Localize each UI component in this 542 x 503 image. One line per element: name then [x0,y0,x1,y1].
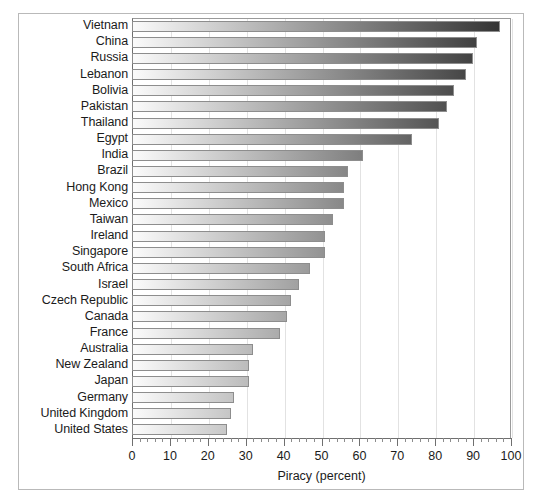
x-tick-minor [375,438,376,442]
x-tick-minor [261,438,262,442]
x-tick-minor [466,438,467,442]
x-tick-minor [344,438,345,442]
y-axis-label-lebanon: Lebanon [0,67,128,81]
x-tick-minor [390,438,391,442]
x-tick-minor [458,438,459,442]
x-tick-label-70: 70 [390,449,404,463]
bar-japan [132,376,249,387]
y-axis-label-south-africa: South Africa [0,260,128,274]
bar-israel [132,279,299,290]
bar-row [132,344,511,355]
x-tick-major [435,438,436,446]
x-tick-minor [140,438,141,442]
bar-hong-kong [132,182,344,193]
x-tick-minor [162,438,163,442]
x-tick-minor [193,438,194,442]
x-tick-major [284,438,285,446]
y-axis-label-new-zealand: New Zealand [0,357,128,371]
bar-lebanon [132,69,466,80]
y-axis-label-canada: Canada [0,309,128,323]
y-axis-label-mexico: Mexico [0,196,128,210]
y-axis-label-taiwan: Taiwan [0,212,128,226]
bar-row [132,247,511,258]
x-tick-minor [291,438,292,442]
x-tick-label-0: 0 [129,449,136,463]
bar-row [132,424,511,435]
bar-row [132,360,511,371]
bar-ireland [132,231,325,242]
y-axis-label-germany: Germany [0,390,128,404]
bar-row [132,150,511,161]
y-axis-label-bolivia: Bolivia [0,83,128,97]
x-tick-major [132,438,133,446]
bar-singapore [132,247,325,258]
x-tick-minor [382,438,383,442]
bar-row [132,101,511,112]
x-tick-label-20: 20 [201,449,215,463]
x-tick-label-90: 90 [466,449,480,463]
x-tick-minor [443,438,444,442]
x-tick-minor [223,438,224,442]
bar-row [132,166,511,177]
bar-series [132,18,511,438]
bar-row [132,21,511,32]
bar-row [132,182,511,193]
x-tick-label-80: 80 [428,449,442,463]
bar-czech-republic [132,295,291,306]
bar-south-africa [132,263,310,274]
x-tick-minor [450,438,451,442]
x-tick-minor [329,438,330,442]
x-tick-label-40: 40 [277,449,291,463]
x-tick-label-50: 50 [315,449,329,463]
bar-china [132,37,477,48]
y-axis-label-egypt: Egypt [0,131,128,145]
x-tick-major [322,438,323,446]
bar-taiwan [132,214,333,225]
bar-row [132,295,511,306]
y-axis-label-india: India [0,147,128,161]
bar-mexico [132,198,344,209]
bar-row [132,311,511,322]
x-tick-label-60: 60 [352,449,366,463]
y-axis-label-pakistan: Pakistan [0,99,128,113]
bar-australia [132,344,253,355]
x-tick-minor [268,438,269,442]
bar-row [132,198,511,209]
bar-row [132,231,511,242]
y-axis-label-singapore: Singapore [0,244,128,258]
bar-canada [132,311,287,322]
x-tick-major [359,438,360,446]
bar-egypt [132,134,412,145]
x-tick-minor [185,438,186,442]
x-tick-minor [367,438,368,442]
y-axis-label-united-states: United States [0,422,128,436]
bar-row [132,376,511,387]
x-tick-minor [337,438,338,442]
x-axis [132,438,511,448]
bar-row [132,263,511,274]
bar-row [132,85,511,96]
bar-row [132,392,511,403]
y-axis-label-ireland: Ireland [0,228,128,242]
bar-thailand [132,118,439,129]
bar-row [132,134,511,145]
x-tick-minor [306,438,307,442]
x-tick-minor [238,438,239,442]
x-tick-minor [352,438,353,442]
piracy-bar-chart-figure: VietnamChinaRussiaLebanonBoliviaPakistan… [0,0,542,503]
bar-india [132,150,363,161]
bar-new-zealand [132,360,249,371]
y-axis-category-labels: VietnamChinaRussiaLebanonBoliviaPakistan… [0,18,128,438]
bar-row [132,37,511,48]
x-tick-minor [299,438,300,442]
bar-row [132,328,511,339]
y-axis-label-hong-kong: Hong Kong [0,180,128,194]
bar-row [132,408,511,419]
bar-vietnam [132,21,500,32]
y-axis-label-france: France [0,325,128,339]
x-tick-minor [496,438,497,442]
x-tick-major [246,438,247,446]
x-tick-major [473,438,474,446]
bar-row [132,69,511,80]
x-tick-minor [155,438,156,442]
